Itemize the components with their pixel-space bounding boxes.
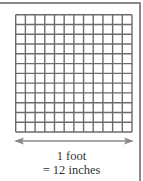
caption-line-1: 1 foot (0, 149, 143, 163)
frame-top-border (0, 2, 141, 4)
double-arrow-icon (13, 136, 135, 146)
caption-line-2: = 12 inches (0, 163, 143, 177)
square-foot-grid (15, 14, 133, 133)
